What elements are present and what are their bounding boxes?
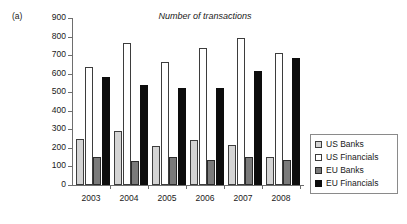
bar (199, 48, 207, 185)
y-tick-mark (68, 185, 72, 186)
bar (161, 62, 169, 185)
legend-item-eu-financials[interactable]: EU Financials (315, 177, 393, 190)
y-tick-label: 400 (52, 105, 66, 116)
figure-panel-a: (a) Number of transactions 9008007006005… (0, 0, 407, 224)
bar (292, 58, 300, 185)
y-tick-mark (68, 74, 72, 75)
x-axis-label-2007: 2007 (223, 193, 263, 204)
bar (228, 145, 236, 185)
legend-label: EU Banks (326, 165, 364, 176)
x-tick-mark (262, 185, 263, 189)
y-tick-label: 600 (52, 68, 66, 79)
plot-area: 9008007006005004003002001000 20032004200… (72, 18, 300, 185)
y-tick-label: 900 (52, 12, 66, 23)
y-tick-label: 700 (52, 49, 66, 60)
bar (178, 88, 186, 185)
bar-group (114, 18, 148, 185)
legend: US BanksUS FinancialsEU BanksEU Financia… (310, 134, 398, 194)
bar (283, 160, 291, 185)
bar (131, 161, 139, 185)
legend-label: US Banks (326, 139, 364, 150)
legend-swatch-icon (315, 154, 322, 161)
x-axis-label-2006: 2006 (185, 193, 225, 204)
y-tick-mark (68, 148, 72, 149)
y-tick-label: 100 (52, 160, 66, 171)
bar (266, 157, 274, 185)
legend-swatch-icon (315, 141, 322, 148)
bar (237, 38, 245, 185)
bar (85, 67, 93, 185)
bar (93, 157, 101, 185)
y-tick-mark (68, 166, 72, 167)
legend-item-eu-banks[interactable]: EU Banks (315, 164, 393, 177)
bar (216, 88, 224, 185)
bar (207, 160, 215, 185)
y-tick-mark (68, 111, 72, 112)
legend-item-us-financials[interactable]: US Financials (315, 151, 393, 164)
legend-swatch-icon (315, 180, 322, 187)
bar (275, 53, 283, 185)
y-tick-label: 800 (52, 31, 66, 42)
x-axis-label-2008: 2008 (261, 193, 301, 204)
y-axis-line (72, 18, 73, 185)
bar-group (76, 18, 110, 185)
bar (245, 157, 253, 185)
y-tick-mark (68, 18, 72, 19)
bar-group (266, 18, 300, 185)
legend-label: EU Financials (326, 178, 378, 189)
y-tick-label: 300 (52, 123, 66, 134)
bar (102, 77, 110, 185)
y-tick-mark (68, 92, 72, 93)
panel-label: (a) (12, 11, 22, 21)
y-tick-label: 500 (52, 86, 66, 97)
x-axis-label-2004: 2004 (109, 193, 149, 204)
legend-swatch-icon (315, 167, 322, 174)
bar (123, 43, 131, 185)
x-tick-mark (148, 185, 149, 189)
bar-group (152, 18, 186, 185)
y-tick-mark (68, 55, 72, 56)
bar (114, 131, 122, 185)
bar (169, 157, 177, 185)
x-tick-mark (300, 185, 301, 189)
bar-group (190, 18, 224, 185)
x-axis-label-2003: 2003 (71, 193, 111, 204)
y-tick-mark (68, 129, 72, 130)
bar (254, 71, 262, 185)
bar (76, 139, 84, 185)
bar (190, 140, 198, 185)
x-axis-line (72, 185, 304, 186)
bar-group (228, 18, 262, 185)
bar (140, 85, 148, 185)
legend-label: US Financials (326, 152, 378, 163)
x-tick-mark (224, 185, 225, 189)
y-tick-label: 0 (61, 179, 66, 190)
y-tick-label: 200 (52, 142, 66, 153)
legend-item-us-banks[interactable]: US Banks (315, 138, 393, 151)
bar (152, 146, 160, 185)
x-axis-label-2005: 2005 (147, 193, 187, 204)
y-tick-mark (68, 37, 72, 38)
x-tick-mark (110, 185, 111, 189)
x-tick-mark (186, 185, 187, 189)
